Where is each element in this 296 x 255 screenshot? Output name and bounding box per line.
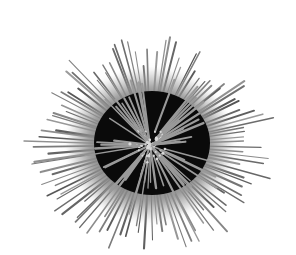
spine-tip (156, 158, 159, 161)
spine-tip (144, 143, 146, 145)
spine-tip (159, 154, 161, 156)
spine-tip (138, 149, 140, 151)
spine-tip (128, 142, 131, 145)
spine-tip (141, 155, 143, 157)
spine-tip (160, 131, 162, 133)
spine-tip (161, 152, 164, 155)
spine-tip (153, 146, 155, 148)
spine-tip (154, 131, 156, 133)
spine-tip (148, 155, 150, 157)
spine-tip (155, 137, 158, 140)
spine-tip (164, 148, 167, 151)
spine-tip (146, 141, 149, 144)
spine-tip (146, 146, 149, 149)
spine-tip (146, 161, 149, 164)
spine-tip (149, 148, 152, 151)
image-canvas (0, 0, 296, 255)
spine-tip (146, 155, 148, 157)
sea-urchin-illustration (0, 0, 296, 255)
spine-tip (155, 151, 157, 153)
